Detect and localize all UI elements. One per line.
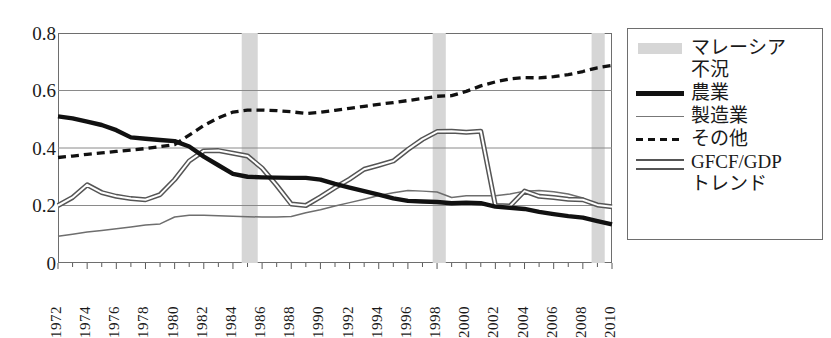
x-tick-1980: 1980: [166, 306, 188, 338]
x-axis-tick-labels: 1972197419761978198019821984198619881990…: [0, 268, 700, 338]
x-tick-2008: 2008: [574, 306, 596, 338]
x-tick-1974: 1974: [78, 306, 100, 338]
legend-item-other[interactable]: その他: [636, 128, 816, 150]
x-tick-1994: 1994: [370, 306, 392, 338]
legend-label-manufacturing: 製造業: [691, 105, 748, 127]
x-tick-2000: 2000: [457, 306, 479, 338]
x-tick-2010: 2010: [603, 306, 625, 338]
hollow-line-swatch-icon: [636, 151, 686, 173]
legend-label-recession: マレーシア 不況: [691, 37, 786, 81]
x-tick-2002: 2002: [486, 306, 508, 338]
x-tick-1982: 1982: [195, 306, 217, 338]
x-tick-1972: 1972: [49, 306, 71, 338]
plot-area: [58, 33, 612, 263]
x-tick-1990: 1990: [311, 306, 333, 338]
y-tick-0.4: 0.4: [6, 139, 56, 158]
x-tick-1988: 1988: [282, 306, 304, 338]
legend-label-gfcf: GFCF/GDP トレンド: [691, 151, 782, 195]
x-tick-1984: 1984: [224, 306, 246, 338]
x-tick-1998: 1998: [428, 306, 450, 338]
thin-line-swatch-icon: [636, 105, 686, 127]
legend-item-agriculture[interactable]: 農業: [636, 82, 816, 104]
chart-container: 0.8 0.6 0.4 0.2 0 1972197419761978198019…: [0, 0, 831, 338]
legend-item-recession[interactable]: マレーシア 不況: [636, 37, 816, 81]
x-tick-1976: 1976: [107, 306, 129, 338]
recession-band-swatch-icon: [636, 37, 686, 59]
y-tick-0.8: 0.8: [6, 24, 56, 43]
y-tick-0.6: 0.6: [6, 81, 56, 100]
legend-item-gfcf[interactable]: GFCF/GDP トレンド: [636, 151, 816, 195]
x-tick-2004: 2004: [516, 306, 538, 338]
y-tick-0.2: 0.2: [6, 196, 56, 215]
x-tick-1986: 1986: [253, 306, 275, 338]
x-tick-2006: 2006: [545, 306, 567, 338]
legend-item-manufacturing[interactable]: 製造業: [636, 105, 816, 127]
legend-label-other: その他: [691, 128, 748, 150]
legend: マレーシア 不況 農業 製造業 その他 GFCF/GDP トレンド: [627, 28, 823, 240]
x-tick-1992: 1992: [341, 306, 363, 338]
x-tick-1996: 1996: [399, 306, 421, 338]
legend-label-agriculture: 農業: [691, 82, 729, 104]
thick-line-swatch-icon: [636, 82, 686, 104]
x-tick-1978: 1978: [136, 306, 158, 338]
dashed-line-swatch-icon: [636, 128, 686, 150]
